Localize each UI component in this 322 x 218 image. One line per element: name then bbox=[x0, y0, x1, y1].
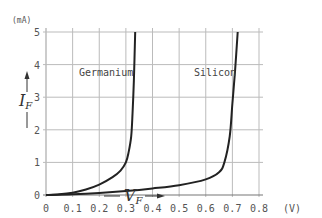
arrow-up-icon bbox=[25, 71, 30, 79]
x-tick-label: 0.2 bbox=[90, 203, 108, 214]
x-tick-label: 0.6 bbox=[197, 203, 215, 214]
germanium-curve bbox=[46, 32, 135, 195]
y-tick-label: 2 bbox=[34, 125, 40, 136]
silicon-label: Silicon bbox=[194, 67, 236, 78]
germanium-label: Germanium bbox=[79, 67, 133, 78]
silicon-curve bbox=[46, 32, 238, 195]
diode-iv-chart: 00.10.20.30.40.50.60.70.8(V)012345 (mA) … bbox=[0, 0, 322, 218]
arrow-right-icon bbox=[157, 194, 165, 199]
y-axis-symbol: IF bbox=[18, 91, 33, 111]
x-tick-label: 0 bbox=[43, 203, 49, 214]
x-tick-label: 0.8 bbox=[250, 203, 268, 214]
x-tick-label: 0.7 bbox=[223, 203, 241, 214]
y-axis-title: IF bbox=[18, 71, 33, 128]
x-tick-label: 0.1 bbox=[64, 203, 82, 214]
grid bbox=[43, 28, 263, 197]
y-tick-label: 0 bbox=[34, 190, 40, 201]
x-tick-label: 0.4 bbox=[143, 203, 161, 214]
y-tick-label: 4 bbox=[34, 60, 40, 71]
y-tick-label: 5 bbox=[34, 27, 40, 38]
curves bbox=[46, 32, 238, 195]
y-unit-label: (mA) bbox=[12, 16, 31, 25]
y-tick-label: 3 bbox=[34, 92, 40, 103]
y-tick-label: 1 bbox=[34, 157, 40, 168]
x-tick-label: 0.5 bbox=[170, 203, 188, 214]
x-unit-label: (V) bbox=[283, 203, 301, 214]
